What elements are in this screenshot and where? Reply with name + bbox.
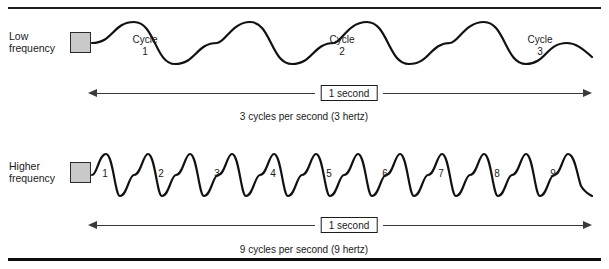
one-second-timebar-high: 1 second <box>88 217 592 233</box>
cycle-label-high-6: 6 <box>382 168 388 179</box>
bottom-divider-rule <box>8 258 601 261</box>
one-second-box-high: 1 second <box>321 217 378 233</box>
cycle-label-high-9: 9 <box>550 168 556 179</box>
frequency-comparison-figure: Low frequency Cycle 1 Cycle 2 Cycle 3 1 … <box>0 0 609 269</box>
caption-higher-frequency: 9 cycles per second (9 hertz) <box>240 244 368 255</box>
cycle-label-high-8: 8 <box>494 168 500 179</box>
cycle-label-high-2: 2 <box>158 168 164 179</box>
cycle-label-high-5: 5 <box>326 168 332 179</box>
cycle-label-high-4: 4 <box>270 168 276 179</box>
timebar-line-left-high <box>96 225 315 226</box>
timebar-line-right-high <box>383 225 584 226</box>
cycle-label-high-7: 7 <box>438 168 444 179</box>
arrow-head-right-icon-high <box>583 221 592 229</box>
cycle-label-high-1: 1 <box>102 168 108 179</box>
cycle-label-high-3: 3 <box>214 168 220 179</box>
